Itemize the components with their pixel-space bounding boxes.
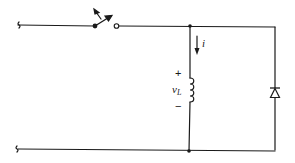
diode-symbol	[270, 88, 280, 98]
inductor-branch-bottom	[189, 102, 190, 151]
bottom-junction-dot	[187, 149, 191, 153]
switch-blade-arrow	[105, 16, 112, 22]
minus-label: −	[175, 100, 181, 112]
top-wire-right	[119, 26, 275, 27]
circuit-diagram: i + vL −	[0, 0, 295, 163]
switch-pivot	[93, 24, 98, 29]
current-arrow-icon	[195, 48, 200, 55]
plus-label: +	[175, 67, 181, 79]
voltage-subscript: L	[176, 88, 182, 97]
switch-contact	[114, 24, 119, 29]
switch-actuation-arrowhead	[94, 9, 99, 14]
top-wire-left	[18, 25, 95, 26]
voltage-label: vL	[172, 83, 182, 97]
current-label: i	[202, 37, 205, 49]
top-junction-dot	[188, 24, 192, 28]
bottom-wire	[18, 149, 275, 151]
inductor-coil	[190, 78, 194, 102]
